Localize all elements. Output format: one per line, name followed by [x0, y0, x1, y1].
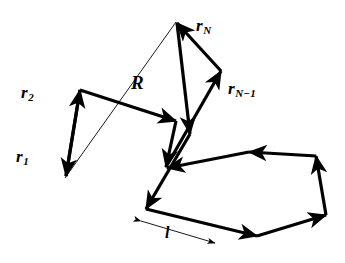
- chain-diagram-svg: [0, 0, 345, 263]
- bond-segment-8: [257, 215, 326, 236]
- chain-bond-group: [66, 23, 326, 236]
- bond-segment-rNm1: [177, 23, 190, 134]
- label-r1-base: r: [16, 147, 23, 166]
- label-R-base: R: [131, 72, 144, 93]
- label-rN: rN: [196, 17, 211, 36]
- label-rN-minus-1: rN−1: [228, 80, 256, 99]
- label-r2: r2: [21, 84, 34, 103]
- bond-segment-r2: [80, 90, 176, 121]
- polymer-chain-figure: r1 r2 R rN rN−1 l: [0, 0, 345, 263]
- label-l-base: l: [165, 224, 169, 241]
- label-r1: r1: [16, 148, 29, 167]
- label-rNm1-sub: N−1: [235, 87, 256, 99]
- label-r2-base: r: [21, 83, 28, 102]
- label-rNm1-base: r: [228, 79, 235, 98]
- label-end-to-end-vector-R: R: [131, 73, 144, 92]
- label-rN-base: r: [196, 16, 203, 35]
- label-r1-sub: 1: [23, 155, 29, 167]
- bond-segment-l: [146, 209, 257, 236]
- label-bond-length-l: l: [165, 225, 169, 241]
- bond-segment-r1-arrow: [66, 90, 80, 176]
- label-rN-sub: N: [203, 24, 212, 36]
- end-to-end-vector-line: [65, 22, 176, 178]
- bond-segment-6: [146, 134, 190, 209]
- label-r2-sub: 2: [28, 91, 34, 103]
- bond-segment-9: [316, 156, 326, 215]
- bond-segment-10: [249, 152, 316, 156]
